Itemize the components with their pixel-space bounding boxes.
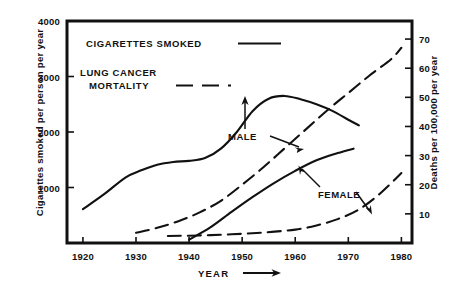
x-tick-label: 1940: [178, 251, 200, 262]
x-tick-label: 1950: [231, 251, 253, 262]
x-tick-label: 1930: [125, 251, 147, 262]
annotation-male-arrow-right-head: [295, 147, 305, 153]
curve-series-2: [136, 48, 401, 233]
annotation-male-arrow-right-shaft: [270, 136, 299, 147]
legend-label-mortality-line2: MORTALITY: [89, 80, 149, 91]
y-left-tick-label: 2000: [38, 127, 60, 138]
y-axis-left-ticks: 1000200030004000: [38, 16, 74, 194]
x-axis-title: YEAR: [198, 268, 229, 279]
y-right-tick-label: 40: [419, 121, 430, 132]
annotation-female-arrow-up-shaft: [302, 169, 320, 187]
x-tick-label: 1960: [284, 251, 306, 262]
annotation-male: MALE: [228, 96, 304, 153]
y-right-tick-label: 70: [419, 34, 430, 45]
y-right-tick-label: 30: [419, 151, 430, 162]
legend: CIGARETTES SMOKED LUNG CANCER MORTALITY: [80, 38, 281, 91]
x-tick-label: 1920: [72, 251, 94, 262]
legend-label-cigarettes: CIGARETTES SMOKED: [86, 38, 202, 49]
y-left-tick-label: 3000: [38, 72, 60, 83]
x-tick-label: 1980: [390, 251, 412, 262]
y-right-tick-label: 20: [419, 180, 430, 191]
x-axis-title-group: YEAR: [198, 268, 281, 279]
y-axis-right-ticks: 10203040506070: [405, 34, 430, 220]
annotation-female-label: FEMALE: [318, 189, 360, 200]
legend-label-mortality-line1: LUNG CANCER: [80, 67, 157, 78]
x-tick-label: 1970: [337, 251, 359, 262]
chart-figure: Cigarettes smoked per person per year De…: [0, 0, 464, 290]
curve-series-3: [168, 173, 402, 236]
y-right-tick-label: 50: [419, 92, 430, 103]
y-left-tick-label: 4000: [38, 16, 60, 27]
y-right-tick-label: 10: [419, 209, 430, 220]
y-left-tick-label: 1000: [38, 183, 60, 194]
annotation-female: FEMALE: [299, 166, 373, 215]
y-right-tick-label: 60: [419, 63, 430, 74]
chart-canvas: 1920193019401950196019701980 10002000300…: [0, 0, 464, 290]
x-axis-ticks: 1920193019401950196019701980: [72, 237, 412, 262]
annotation-male-label: MALE: [228, 131, 257, 142]
